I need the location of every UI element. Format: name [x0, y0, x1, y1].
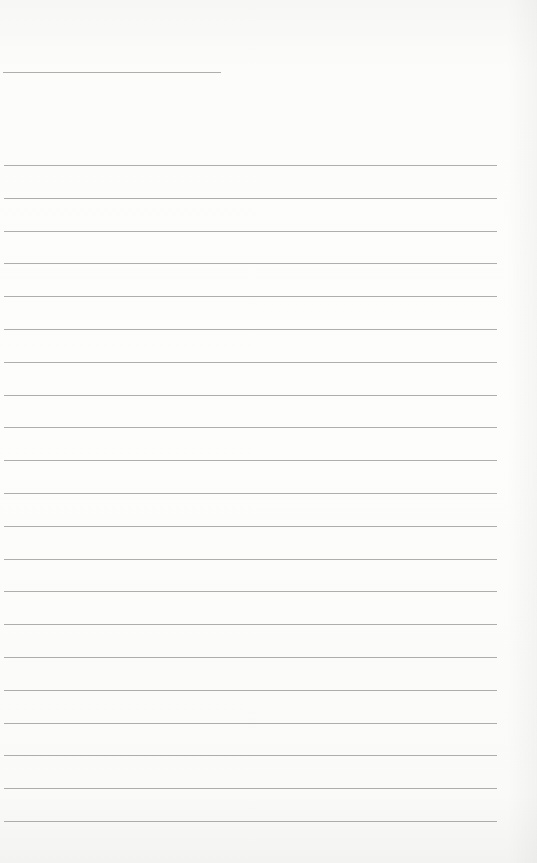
ruled-line: [4, 493, 497, 494]
ruled-line: [4, 263, 497, 264]
ruled-line: [4, 821, 497, 822]
ruled-line: [4, 296, 497, 297]
ruled-line: [4, 329, 497, 330]
ruled-line: [4, 165, 497, 166]
ruled-line: [4, 788, 497, 789]
lined-paper-page: [0, 0, 537, 863]
ruled-line: [4, 362, 497, 363]
ruled-line: [4, 755, 497, 756]
ruled-line: [4, 231, 497, 232]
ruled-line: [4, 395, 497, 396]
ruled-line: [4, 559, 497, 560]
ruled-line: [4, 690, 497, 691]
ruled-line: [4, 526, 497, 527]
header-name-line: [3, 72, 221, 73]
ruled-line: [4, 723, 497, 724]
ruled-line: [4, 624, 497, 625]
ruled-line: [4, 198, 497, 199]
ruled-line: [4, 657, 497, 658]
ruled-line: [4, 591, 497, 592]
ruled-line: [4, 460, 497, 461]
ruled-line: [4, 427, 497, 428]
